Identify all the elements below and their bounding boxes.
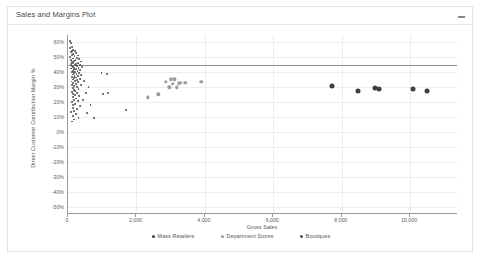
legend-swatch-icon bbox=[300, 235, 303, 238]
y-axis-tick-label: -50% bbox=[52, 204, 64, 210]
data-point-boutiques[interactable] bbox=[78, 72, 80, 74]
legend-label: Mass Retailers bbox=[158, 233, 195, 239]
x-axis-tick-label: 10,000 bbox=[401, 217, 417, 223]
data-point-boutiques[interactable] bbox=[101, 73, 103, 75]
data-point-boutiques[interactable] bbox=[72, 115, 74, 117]
data-point-boutiques[interactable] bbox=[70, 42, 72, 44]
x-axis-tick-label: 0 bbox=[66, 217, 69, 223]
data-point-boutiques[interactable] bbox=[79, 78, 81, 80]
legend-item-department-stores[interactable]: Department Stores bbox=[221, 233, 274, 239]
data-point-boutiques[interactable] bbox=[85, 92, 87, 94]
data-point-boutiques[interactable] bbox=[75, 77, 77, 79]
data-point-mass-retailers[interactable] bbox=[376, 86, 381, 91]
gridline-horizontal bbox=[68, 192, 457, 193]
x-axis-tick-mark bbox=[409, 214, 410, 217]
data-point-boutiques[interactable] bbox=[86, 112, 88, 114]
data-point-boutiques[interactable] bbox=[106, 73, 108, 75]
data-point-mass-retailers[interactable] bbox=[411, 87, 416, 92]
legend-swatch-icon bbox=[221, 235, 224, 238]
data-point-department-stores[interactable] bbox=[200, 80, 203, 83]
gridline-horizontal bbox=[68, 207, 457, 208]
data-point-boutiques[interactable] bbox=[107, 92, 109, 94]
data-point-boutiques[interactable] bbox=[78, 88, 80, 90]
x-axis-tick-mark bbox=[341, 214, 342, 217]
legend-item-boutiques[interactable]: Boutiques bbox=[300, 233, 331, 239]
data-point-boutiques[interactable] bbox=[75, 83, 77, 85]
y-axis-tick-label: 20% bbox=[54, 99, 64, 105]
data-point-boutiques[interactable] bbox=[77, 81, 79, 83]
data-point-boutiques[interactable] bbox=[80, 61, 82, 63]
gridline-horizontal bbox=[68, 42, 457, 43]
legend-swatch-icon bbox=[152, 235, 155, 238]
data-point-department-stores[interactable] bbox=[146, 96, 149, 99]
data-point-department-stores[interactable] bbox=[164, 80, 167, 83]
y-axis-tick-label: 0% bbox=[57, 129, 65, 135]
data-point-boutiques[interactable] bbox=[74, 94, 76, 96]
data-point-boutiques[interactable] bbox=[72, 107, 74, 109]
gridline-vertical bbox=[205, 35, 206, 213]
data-point-boutiques[interactable] bbox=[81, 66, 83, 68]
data-point-boutiques[interactable] bbox=[76, 108, 78, 110]
data-point-boutiques[interactable] bbox=[78, 117, 80, 119]
gridline-horizontal bbox=[68, 72, 457, 73]
gridline-horizontal bbox=[68, 177, 457, 178]
gridline-horizontal bbox=[68, 57, 457, 58]
data-point-mass-retailers[interactable] bbox=[424, 89, 429, 94]
data-point-mass-retailers[interactable] bbox=[330, 84, 335, 89]
gridline-horizontal bbox=[68, 117, 457, 118]
y-axis-tick-label: 30% bbox=[54, 84, 64, 90]
data-point-boutiques[interactable] bbox=[75, 113, 77, 115]
gridline-vertical bbox=[410, 35, 411, 213]
legend-label: Boutiques bbox=[306, 233, 331, 239]
ellipsis-horizontal-icon[interactable] bbox=[458, 14, 465, 18]
gridline-vertical bbox=[136, 35, 137, 213]
x-axis-tick-mark bbox=[135, 214, 136, 217]
x-axis-tick-label: 2,000 bbox=[129, 217, 142, 223]
y-axis-tick-label: 60% bbox=[54, 39, 64, 45]
gridline-horizontal bbox=[68, 147, 457, 148]
y-axis-tick-label: -10% bbox=[52, 144, 64, 150]
data-point-boutiques[interactable] bbox=[82, 99, 84, 101]
data-point-boutiques[interactable] bbox=[80, 84, 82, 86]
reference-line bbox=[68, 65, 457, 66]
data-point-boutiques[interactable] bbox=[71, 46, 73, 48]
data-point-boutiques[interactable] bbox=[102, 93, 104, 95]
data-point-boutiques[interactable] bbox=[71, 121, 73, 123]
x-axis-tick-mark bbox=[272, 214, 273, 217]
data-point-boutiques[interactable] bbox=[93, 117, 95, 119]
data-point-department-stores[interactable] bbox=[173, 78, 176, 81]
data-point-boutiques[interactable] bbox=[79, 105, 81, 107]
x-axis-tick-label: 4,000 bbox=[197, 217, 210, 223]
data-point-boutiques[interactable] bbox=[73, 104, 75, 106]
data-point-boutiques[interactable] bbox=[73, 99, 75, 101]
data-point-department-stores[interactable] bbox=[171, 82, 174, 85]
data-point-boutiques[interactable] bbox=[88, 86, 90, 88]
data-point-mass-retailers[interactable] bbox=[356, 88, 361, 93]
y-axis-tick-label: -40% bbox=[52, 189, 64, 195]
data-point-boutiques[interactable] bbox=[71, 101, 73, 103]
data-point-boutiques[interactable] bbox=[76, 92, 78, 94]
data-point-boutiques[interactable] bbox=[83, 80, 85, 82]
data-point-department-stores[interactable] bbox=[184, 81, 187, 84]
data-point-department-stores[interactable] bbox=[179, 81, 182, 84]
data-point-boutiques[interactable] bbox=[90, 104, 92, 106]
y-axis-tick-label: 50% bbox=[54, 54, 64, 60]
data-point-boutiques[interactable] bbox=[73, 110, 75, 112]
data-point-department-stores[interactable] bbox=[175, 86, 178, 89]
data-point-boutiques[interactable] bbox=[77, 100, 79, 102]
data-point-boutiques[interactable] bbox=[78, 95, 80, 97]
gridline-horizontal bbox=[68, 162, 457, 163]
data-point-department-stores[interactable] bbox=[168, 86, 171, 89]
chart-card: Sales and Margins Plot Direct Customer C… bbox=[7, 6, 473, 252]
y-axis-tick-label: -30% bbox=[52, 174, 64, 180]
data-point-boutiques[interactable] bbox=[77, 62, 79, 64]
data-point-department-stores[interactable] bbox=[157, 93, 160, 96]
legend-item-mass-retailers[interactable]: Mass Retailers bbox=[152, 233, 195, 239]
data-point-boutiques[interactable] bbox=[125, 109, 127, 111]
gridline-horizontal bbox=[68, 102, 457, 103]
data-point-boutiques[interactable] bbox=[80, 74, 82, 76]
scatter-plot-canvas[interactable] bbox=[67, 35, 457, 214]
page-title: Sales and Margins Plot bbox=[16, 10, 95, 19]
data-point-boutiques[interactable] bbox=[79, 69, 81, 71]
data-point-boutiques[interactable] bbox=[70, 111, 72, 113]
